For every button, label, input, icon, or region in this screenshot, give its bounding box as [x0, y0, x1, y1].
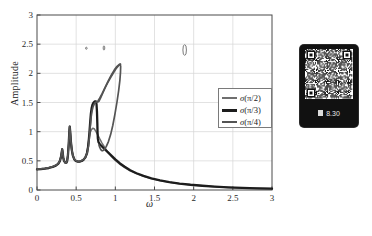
qr-caption-icon: [318, 110, 323, 116]
svg-text:0: 0: [29, 185, 34, 195]
amplitude-frequency-chart: 00.511.522.5300.511.522.53 Amplitude ω σ…: [0, 0, 290, 236]
legend-item-sigma-pi-4[interactable]: σ(π/4): [222, 116, 268, 128]
legend-swatch-sigma-pi-3: [222, 109, 237, 112]
svg-text:0.5: 0.5: [71, 193, 83, 203]
legend-label-sigma-pi-3: σ(π/3): [240, 105, 261, 115]
svg-text:3: 3: [270, 193, 275, 203]
x-axis-label: ω: [146, 198, 153, 209]
svg-text:2.5: 2.5: [227, 193, 239, 203]
legend-label-sigma-pi-2: σ(π/2): [240, 93, 261, 103]
chart-legend: σ(π/2) σ(π/3) σ(π/4): [218, 88, 272, 128]
svg-text:1.5: 1.5: [22, 98, 34, 108]
svg-text:2: 2: [29, 68, 34, 78]
qr-caption-text: 8.30: [326, 110, 340, 117]
qr-code-panel[interactable]: 8.30: [300, 45, 358, 127]
svg-text:0.5: 0.5: [22, 156, 34, 166]
legend-item-sigma-pi-2[interactable]: σ(π/2): [222, 92, 268, 104]
svg-text:2.5: 2.5: [22, 39, 34, 49]
svg-text:3: 3: [29, 10, 34, 20]
legend-swatch-sigma-pi-2: [222, 97, 237, 99]
qr-code-image: [305, 49, 353, 99]
svg-text:1: 1: [113, 193, 118, 203]
svg-text:2: 2: [191, 193, 196, 203]
legend-label-sigma-pi-4: σ(π/4): [240, 117, 261, 127]
svg-text:1: 1: [29, 127, 34, 137]
legend-swatch-sigma-pi-4: [222, 121, 237, 123]
svg-text:0: 0: [35, 193, 40, 203]
legend-item-sigma-pi-3[interactable]: σ(π/3): [222, 104, 268, 116]
y-axis-label: Amplitude: [9, 44, 20, 124]
qr-caption: 8.30: [300, 103, 358, 123]
